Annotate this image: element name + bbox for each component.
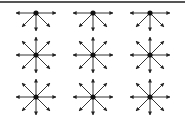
arrow-se-icon [93, 55, 107, 69]
node-r1-c1 [16, 10, 56, 31]
arrow-sw-icon [22, 13, 36, 27]
arrow-sw-icon [136, 55, 150, 69]
arrow-nw-icon [22, 41, 36, 55]
node-grid-diagram [0, 0, 185, 127]
node-dot [147, 94, 152, 99]
arrow-se-icon [150, 13, 164, 27]
node-dot [90, 94, 95, 99]
arrow-sw-icon [22, 55, 36, 69]
arrow-ne-icon [93, 83, 107, 97]
arrow-se-icon [150, 55, 164, 69]
arrow-se-icon [36, 55, 50, 69]
node-dot [90, 10, 95, 15]
node-dot [147, 52, 152, 57]
node-dot [90, 52, 95, 57]
arrow-ne-icon [36, 41, 50, 55]
arrow-ne-icon [93, 41, 107, 55]
node-r3-c2 [73, 79, 113, 115]
node-r2-c3 [130, 37, 170, 73]
arrow-nw-icon [22, 83, 36, 97]
arrow-nw-icon [79, 41, 93, 55]
node-r3-c3 [130, 79, 170, 115]
arrow-se-icon [36, 97, 50, 111]
arrow-ne-icon [150, 41, 164, 55]
arrow-se-icon [93, 13, 107, 27]
arrow-ne-icon [36, 83, 50, 97]
node-dot [33, 10, 38, 15]
arrow-ne-icon [150, 83, 164, 97]
arrow-se-icon [36, 13, 50, 27]
node-dot [147, 10, 152, 15]
arrow-sw-icon [79, 97, 93, 111]
arrow-nw-icon [79, 83, 93, 97]
arrow-sw-icon [136, 97, 150, 111]
arrow-sw-icon [22, 97, 36, 111]
node-r3-c1 [16, 79, 56, 115]
arrow-nw-icon [136, 83, 150, 97]
arrow-sw-icon [79, 55, 93, 69]
arrow-sw-icon [79, 13, 93, 27]
arrow-se-icon [150, 97, 164, 111]
arrow-se-icon [93, 97, 107, 111]
node-r1-c3 [130, 10, 170, 31]
node-r1-c2 [73, 10, 113, 31]
arrow-sw-icon [136, 13, 150, 27]
arrow-nw-icon [136, 41, 150, 55]
node-dot [33, 52, 38, 57]
node-dot [33, 94, 38, 99]
node-r2-c2 [73, 37, 113, 73]
node-r2-c1 [16, 37, 56, 73]
